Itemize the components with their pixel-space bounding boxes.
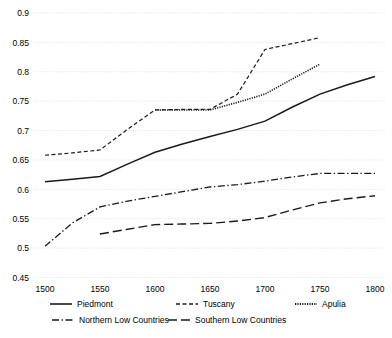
legend-label: Tuscany xyxy=(203,299,236,309)
legend-label: Northern Low Countries xyxy=(79,315,169,325)
y-tick-label: 0.8 xyxy=(17,67,29,77)
chart-background xyxy=(0,0,392,338)
y-tick-label: 0.85 xyxy=(12,38,29,48)
y-tick-label: 0.75 xyxy=(12,96,29,106)
line-chart: 0.450.50.550.60.650.70.750.80.850.9 1500… xyxy=(0,0,392,338)
x-tick-label: 1600 xyxy=(146,284,165,294)
y-tick-label: 0.55 xyxy=(12,214,29,224)
x-tick-label: 1800 xyxy=(366,284,385,294)
x-tick-label: 1550 xyxy=(91,284,110,294)
x-tick-label: 1500 xyxy=(36,284,55,294)
legend-label: Apulia xyxy=(322,299,346,309)
y-tick-label: 0.5 xyxy=(17,243,29,253)
legend-label: Piedmont xyxy=(77,299,114,309)
x-tick-label: 1650 xyxy=(201,284,220,294)
x-tick-label: 1700 xyxy=(256,284,275,294)
y-tick-label: 0.6 xyxy=(17,185,29,195)
y-tick-label: 0.65 xyxy=(12,155,29,165)
y-tick-label: 0.9 xyxy=(17,8,29,18)
x-tick-label: 1750 xyxy=(311,284,330,294)
chart-canvas: 0.450.50.550.60.650.70.750.80.850.9 1500… xyxy=(0,0,392,338)
legend-label: Southern Low Countries xyxy=(195,315,286,325)
y-tick-label: 0.7 xyxy=(17,126,29,136)
y-tick-label: 0.45 xyxy=(12,273,29,283)
